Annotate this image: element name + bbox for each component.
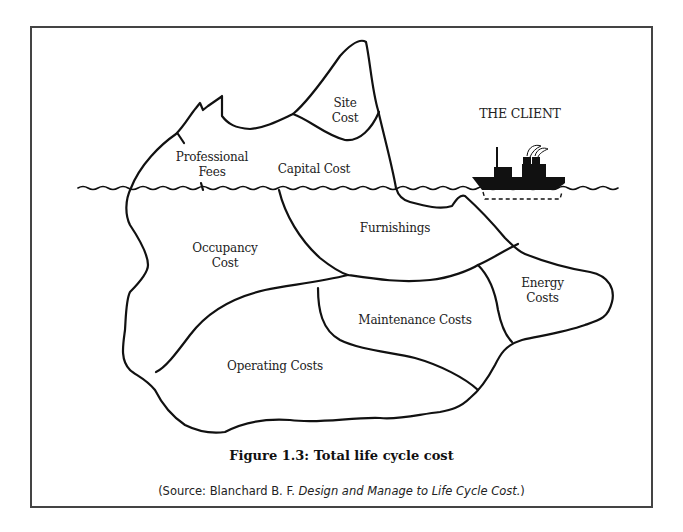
site-cost-line2: Cost xyxy=(320,111,370,126)
source-prefix: (Source: Blanchard B. F. xyxy=(158,484,298,498)
label-operating-costs: Operating Costs xyxy=(220,359,330,374)
occupancy-bottom-divider xyxy=(156,275,348,372)
occupancy-cost-line1: Occupancy xyxy=(175,241,275,256)
site-cost-line1: Site xyxy=(320,96,370,111)
professional-fees-line1: Professional xyxy=(166,150,258,165)
label-maintenance-costs: Maintenance Costs xyxy=(350,313,480,328)
label-ship: THE CLIENT xyxy=(470,106,570,121)
furnishings-bottom-divider xyxy=(348,244,518,281)
source-title: Design and Manage to Life Cycle Cost. xyxy=(298,484,520,498)
professional-fees-tick-top xyxy=(178,134,184,143)
label-occupancy-cost: Occupancy Cost xyxy=(175,241,275,271)
energy-left-divider xyxy=(478,265,512,342)
professional-fees-tick-bottom xyxy=(201,183,203,190)
ship-icon xyxy=(472,145,565,199)
label-site-cost: Site Cost xyxy=(320,96,370,126)
figure-caption: Figure 1.3: Total life cycle cost xyxy=(0,448,683,463)
energy-costs-line1: Energy xyxy=(515,276,570,291)
figure-source: (Source: Blanchard B. F. Design and Mana… xyxy=(0,484,683,498)
professional-fees-line2: Fees xyxy=(166,165,258,180)
furnishings-left-divider xyxy=(279,190,348,275)
occupancy-cost-line2: Cost xyxy=(175,256,275,271)
energy-costs-line2: Costs xyxy=(515,291,570,306)
label-furnishings: Furnishings xyxy=(345,221,445,236)
maintenance-left-divider xyxy=(318,288,478,390)
label-energy-costs: Energy Costs xyxy=(515,276,570,306)
label-capital-cost: Capital Cost xyxy=(264,162,364,177)
label-professional-fees: Professional Fees xyxy=(166,150,258,180)
source-suffix: ) xyxy=(520,484,525,498)
